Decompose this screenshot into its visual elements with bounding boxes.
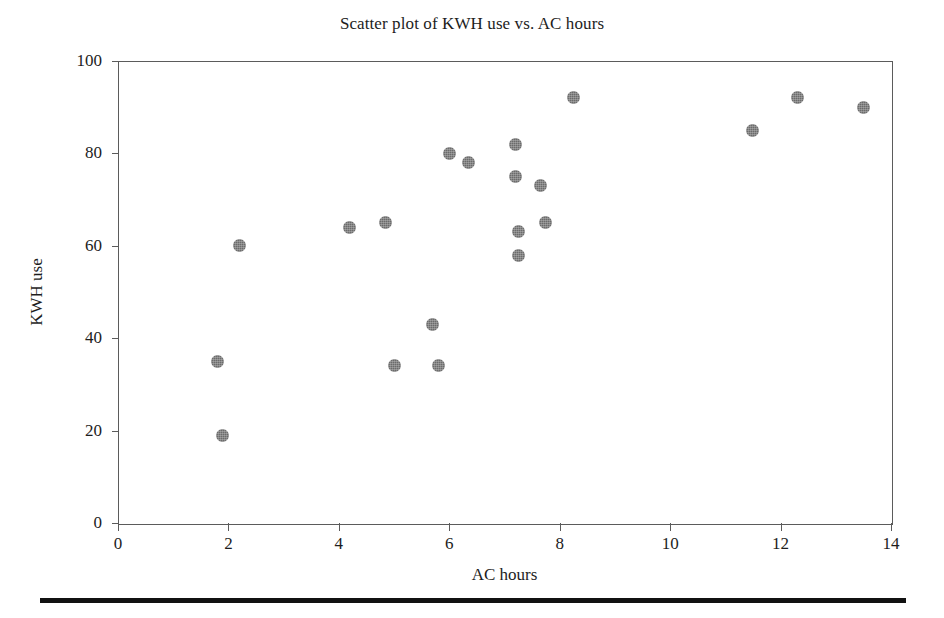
x-axis-tick-label: 4 [309,534,369,554]
x-axis-tick-label: 10 [640,534,700,554]
x-axis-tick-label: 8 [530,534,590,554]
y-axis-tick-label: 80 [40,143,102,163]
x-axis-tick-mark [891,523,892,531]
x-axis-tick-mark [670,523,671,531]
chart-title: Scatter plot of KWH use vs. AC hours [0,14,944,34]
data-point [443,147,456,160]
x-axis-tick-label: 12 [751,534,811,554]
x-axis-tick-mark [118,523,119,531]
x-axis-tick-label: 2 [198,534,258,554]
x-axis-tick-label: 6 [419,534,479,554]
x-axis-tick-mark [560,523,561,531]
data-point [432,359,445,372]
y-axis-tick-label: 40 [40,328,102,348]
data-point [791,91,804,104]
data-point [233,239,246,252]
y-axis-tick-label: 60 [40,236,102,256]
y-axis-tick-label: 100 [40,51,102,71]
data-point [567,91,580,104]
data-point [343,221,356,234]
data-point [746,124,759,137]
data-point [512,249,525,262]
y-axis-title: KWH use [27,258,47,326]
data-point [211,355,224,368]
data-point [509,170,522,183]
data-point [379,216,392,229]
y-axis-tick-label: 20 [40,421,102,441]
data-point [534,179,547,192]
data-point [462,156,475,169]
scatter-plot-figure: Scatter plot of KWH use vs. AC hours KWH… [0,0,944,618]
data-point [426,318,439,331]
data-point [857,101,870,114]
bottom-rule [40,598,906,603]
x-axis-title: AC hours [118,565,891,585]
data-points-layer [118,61,891,523]
x-axis-tick-mark [449,523,450,531]
data-point [512,225,525,238]
y-axis-title-container: KWH use [22,61,52,523]
x-axis-tick-mark [228,523,229,531]
y-axis-tick-label: 0 [40,513,102,533]
x-axis-tick-mark [781,523,782,531]
x-axis-tick-label: 0 [88,534,148,554]
x-axis-tick-mark [339,523,340,531]
data-point [509,138,522,151]
x-axis-tick-label: 14 [861,534,921,554]
data-point [539,216,552,229]
data-point [216,429,229,442]
data-point [388,359,401,372]
